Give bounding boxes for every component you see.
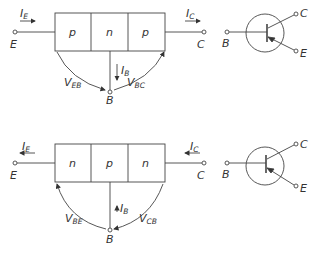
pnp-collector-label: C	[197, 38, 205, 51]
pnp-symbol-base-label: B	[222, 37, 230, 50]
pnp-symbol-emitter-label: E	[300, 47, 307, 60]
npn-emitter-label: E	[10, 169, 17, 182]
pnp-vbc-label: VBC	[127, 76, 146, 90]
npn-base-label: B	[106, 233, 114, 246]
transistor-diagram: p n p E C B IE IC IB VEB VBC B C E	[0, 0, 318, 257]
pnp-layer-2: n	[106, 26, 113, 39]
npn-layer-2: p	[105, 157, 113, 170]
npn-vcb-label: VCB	[139, 212, 157, 226]
npn-collector-label: C	[197, 169, 205, 182]
pnp-base-label: B	[106, 94, 114, 107]
pnp-ic-label: IC	[186, 7, 195, 21]
npn-ic-label: IC	[190, 140, 199, 154]
npn-symbol-collector-label: C	[300, 138, 308, 151]
npn-ie-label: IE	[22, 140, 30, 154]
pnp-layer-1: p	[68, 26, 76, 39]
npn-layer-3: n	[142, 157, 149, 170]
npn-symbol-emitter-label: E	[300, 182, 307, 195]
npn-vbe-label: VBE	[65, 212, 83, 226]
pnp-layer-3: p	[141, 26, 149, 39]
pnp-symbol-collector-label: C	[300, 7, 308, 20]
pnp-ie-label: IE	[20, 7, 28, 21]
npn-ib-label: IB	[120, 202, 128, 216]
npn-symbol	[225, 142, 298, 188]
pnp-symbol	[225, 12, 298, 53]
npn-layer-1: n	[69, 157, 76, 170]
npn-symbol-base-label: B	[222, 168, 230, 181]
pnp-emitter-label: E	[10, 38, 17, 51]
